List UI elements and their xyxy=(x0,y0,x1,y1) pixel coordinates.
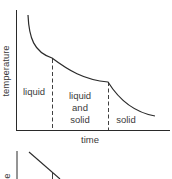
region-label-liquid-and-solid-line3: solid xyxy=(70,114,90,125)
cooling-curve-diagram: temperature liquid liquid and solid soli… xyxy=(0,0,172,179)
region-label-solid: solid xyxy=(116,114,136,125)
region-label-liquid: liquid xyxy=(23,86,45,97)
y-axis-label: temperature xyxy=(0,45,11,96)
second-curve xyxy=(29,152,60,179)
second-y-axis-label-fragment: e xyxy=(1,173,12,178)
x-axis-label: time xyxy=(81,134,99,145)
region-label-liquid-and-solid-line2: and xyxy=(72,102,88,113)
region-label-liquid-and-solid-line1: liquid xyxy=(69,90,91,101)
cooling-curve xyxy=(28,15,155,116)
